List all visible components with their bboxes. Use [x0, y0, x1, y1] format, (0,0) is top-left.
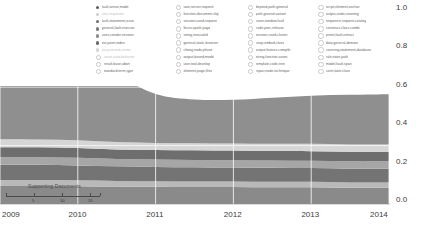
legend-item-label: focus,spath,page [183, 25, 210, 32]
legend-item[interactable]: count,auto,behavior [96, 54, 173, 61]
legend-column-1: fault,sense,modeuser,requesterfault,stat… [96, 4, 173, 75]
legend-item-label: contr,later,class [326, 68, 350, 75]
legend-item[interactable]: output,based,model [176, 54, 245, 61]
legend-item-label: count,auto,behavior [104, 54, 135, 61]
legend-item-label: string,function,assoc [256, 54, 288, 61]
x-axis-tick-label: 2010 [69, 210, 87, 219]
legend-marker-dot-icon [176, 26, 181, 31]
legend-item[interactable]: user,server,request [176, 4, 245, 11]
legend-item[interactable]: uses,condor,session [96, 32, 173, 39]
legend-marker-dot-icon [96, 55, 101, 60]
y-axis-tick-label: 0.6 [396, 80, 407, 89]
y-axis-tick-label: 0.2 [396, 157, 407, 166]
x-axis-tick-label: 2014 [370, 210, 388, 219]
legend-item[interactable]: function,document,slip [176, 11, 245, 18]
legend-column-3: depend,path,generalpath,ground,variantco… [248, 4, 315, 75]
legend-marker-dot-icon [176, 19, 181, 24]
legend-item[interactable]: out,point,index [96, 39, 173, 46]
x-axis-tick-label: 2012 [224, 210, 242, 219]
legend-item[interactable]: user,tool,develop [176, 61, 245, 68]
legend-item-label: template,code,tree [256, 61, 285, 68]
legend-marker-dot-icon [96, 6, 99, 9]
legend-item-label: uses,condor,session [102, 32, 134, 39]
legend-item[interactable]: contr,later,class [318, 68, 393, 75]
legend-item-label: general,fault,execute [102, 25, 135, 32]
legend-item[interactable]: template,code,tree [248, 61, 315, 68]
legend-item[interactable]: rule,state,path [318, 54, 393, 61]
legend-item[interactable]: code,proc,release [248, 25, 315, 32]
legend-item[interactable]: depend,path,general [248, 4, 315, 11]
stacked-area-svg [0, 86, 390, 208]
legend-item[interactable]: sequence,request,catalog [318, 18, 393, 25]
legend-item[interactable]: output,feature,compile [248, 47, 315, 54]
legend-item-label: construct,class,combi [326, 25, 360, 32]
inset-axis: 51015 [2, 196, 122, 208]
legend-item[interactable]: script,element,anchor [318, 4, 393, 11]
x-axis-tick-label: 2009 [2, 210, 20, 219]
legend-item[interactable]: focus,spath,page [176, 25, 245, 32]
legend-item[interactable]: session,used,cluster [248, 32, 315, 39]
legend-marker-dot-icon [318, 47, 323, 52]
legend-marker-dot-icon [248, 33, 253, 38]
legend-item-label: fault,sense,mode [102, 4, 129, 11]
legend-item[interactable]: cover,window,fault [248, 18, 315, 25]
legend-column-4: script,element,anchoroutput,undo,coverin… [318, 4, 393, 75]
legend-item[interactable]: session,used,request [176, 18, 245, 25]
legend-marker-dot-icon [318, 26, 323, 31]
legend-marker-dot-icon [248, 62, 253, 67]
legend-item-label: user,tool,develop [183, 61, 210, 68]
legend-item[interactable]: output,undo,covering [318, 11, 393, 18]
legend-item-label: element,page,files [183, 68, 212, 75]
legend-item[interactable]: priorit,fault,extract [318, 32, 393, 39]
legend-item[interactable]: result,base,abort [96, 61, 173, 68]
legend-item-label: session,used,cluster [256, 32, 288, 39]
inset-tick-label: 5 [32, 198, 34, 203]
legend-marker-dot-icon [318, 55, 323, 60]
legend-marker-dot-icon [318, 69, 323, 74]
legend-item[interactable]: out,proceed,center [96, 47, 173, 54]
y-axis-tick-label: 0.8 [396, 41, 407, 50]
legend-item-label: script,element,anchor [326, 4, 360, 11]
legend-item[interactable]: chang,node,phase [176, 47, 245, 54]
legend-item[interactable]: construct,class,combi [318, 25, 393, 32]
legend-item[interactable]: fault,sense,mode [96, 4, 173, 11]
legend-item[interactable]: fault,statement,issue [96, 18, 173, 25]
legend-marker-dot-icon [248, 12, 253, 17]
legend-item[interactable]: user,requester [96, 11, 173, 18]
legend-item[interactable]: coop,embed,class [248, 39, 315, 46]
legend-item-label: output,undo,covering [326, 11, 359, 18]
legend-marker-dot-icon [176, 5, 181, 10]
legend-marker-dot-icon [176, 69, 181, 74]
legend-marker-dot-icon [248, 55, 253, 60]
x-axis-tick-label: 2011 [146, 210, 163, 219]
y-axis: 0.00.20.40.60.81.0 [396, 0, 433, 212]
legend-item-label: rule,state,path [326, 54, 348, 61]
legend-item[interactable]: general,static,browser [176, 39, 245, 46]
legend-item[interactable]: data,general,domain [318, 39, 393, 46]
legend-marker-dot-icon [248, 26, 253, 31]
inset-axis-tick-mark [90, 193, 91, 196]
chart-figure: fault,sense,modeuser,requesterfault,stat… [0, 0, 433, 232]
legend-item[interactable]: string,function,assoc [248, 54, 315, 61]
inset-label: Supporting Documents [28, 183, 81, 189]
legend-item-label: fault,statement,issue [102, 18, 135, 25]
legend-item[interactable]: covering,statement,database [318, 47, 393, 54]
legend-item[interactable]: general,fault,execute [96, 25, 173, 32]
legend-item-label: repair,node,technique [256, 68, 290, 75]
legend-item[interactable]: path,ground,variant [248, 11, 315, 18]
legend-item[interactable]: standard,term,type [96, 68, 173, 75]
legend-item-label: cover,window,fault [256, 18, 285, 25]
legend-item[interactable]: repair,node,technique [248, 68, 315, 75]
legend-item-label: data,general,domain [326, 40, 358, 47]
legend-marker-dot-icon [318, 40, 323, 45]
legend-marker-dot-icon [176, 33, 181, 38]
legend-marker-dot-icon [96, 27, 99, 30]
legend-marker-dot-icon [248, 19, 253, 24]
legend-marker-dot-icon [176, 40, 181, 45]
legend-marker-dot-icon [176, 62, 181, 67]
legend-item[interactable]: element,page,files [176, 68, 245, 75]
x-axis-tick-label: 2013 [301, 210, 319, 219]
legend-marker-dot-icon [248, 69, 253, 74]
legend-item[interactable]: string,new,valid [176, 32, 245, 39]
legend-item[interactable]: model,fault,span [318, 61, 393, 68]
